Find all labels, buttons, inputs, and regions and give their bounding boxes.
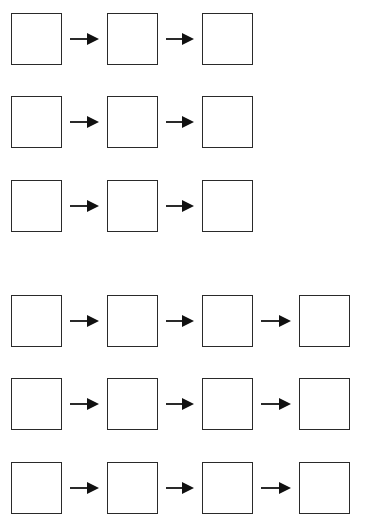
answer-box[interactable]	[107, 96, 158, 148]
right-arrow-icon	[166, 115, 194, 129]
right-arrow-icon	[70, 115, 99, 129]
right-arrow-icon	[261, 397, 291, 411]
right-arrow-icon	[261, 481, 291, 495]
right-arrow-icon	[166, 314, 194, 328]
answer-box[interactable]	[11, 13, 62, 65]
right-arrow-icon	[166, 32, 194, 46]
right-arrow-icon	[166, 481, 194, 495]
answer-box[interactable]	[299, 295, 350, 347]
answer-box[interactable]	[11, 295, 62, 347]
answer-box[interactable]	[11, 378, 62, 430]
answer-box[interactable]	[107, 378, 158, 430]
right-arrow-icon	[70, 397, 99, 411]
right-arrow-icon	[70, 314, 99, 328]
right-arrow-icon	[70, 481, 99, 495]
answer-box[interactable]	[11, 96, 62, 148]
right-arrow-icon	[261, 314, 291, 328]
answer-box[interactable]	[202, 180, 253, 232]
answer-box[interactable]	[107, 462, 158, 514]
answer-box[interactable]	[202, 13, 253, 65]
right-arrow-icon	[166, 199, 194, 213]
right-arrow-icon	[70, 199, 99, 213]
answer-box[interactable]	[107, 180, 158, 232]
right-arrow-icon	[166, 397, 194, 411]
answer-box[interactable]	[202, 295, 253, 347]
answer-box[interactable]	[202, 462, 253, 514]
right-arrow-icon	[70, 32, 99, 46]
answer-box[interactable]	[107, 13, 158, 65]
answer-box[interactable]	[11, 462, 62, 514]
answer-box[interactable]	[107, 295, 158, 347]
answer-box[interactable]	[202, 96, 253, 148]
answer-box[interactable]	[299, 462, 350, 514]
answer-box[interactable]	[202, 378, 253, 430]
answer-box[interactable]	[299, 378, 350, 430]
answer-box[interactable]	[11, 180, 62, 232]
